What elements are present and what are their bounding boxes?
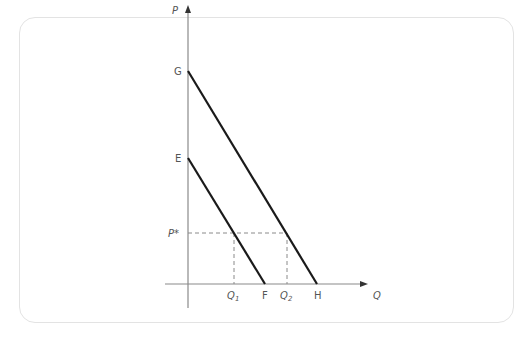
y-axis-label: P <box>172 5 179 16</box>
label-q1: Q1 <box>227 290 239 303</box>
demand-curve-gh <box>188 71 317 284</box>
demand-curve-ef <box>188 158 265 284</box>
label-q2: Q2 <box>280 290 293 303</box>
label-g: G <box>174 66 182 77</box>
label-e: E <box>175 153 181 164</box>
label-p-star: P* <box>168 228 179 239</box>
y-axis-arrow-icon <box>185 5 191 13</box>
demand-diagram: P Q G E P* Q1 F Q2 H <box>0 0 532 339</box>
x-axis-label: Q <box>373 290 381 301</box>
label-f: F <box>262 290 268 301</box>
label-h: H <box>314 290 322 301</box>
x-axis-arrow-icon <box>360 281 368 287</box>
